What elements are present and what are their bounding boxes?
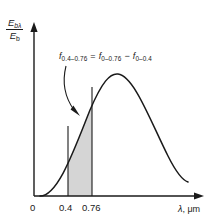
x-tick-label-0-4: 0.4 [59,203,72,213]
annotation-leader-line [64,66,74,110]
formula-equals: = [90,51,95,61]
y-axis-denominator-subscript: b [16,35,20,42]
x-tick-label-0: 0 [30,203,35,213]
x-axis-label-units: , μm [182,204,200,214]
formula-lhs-subscript: 0.4–0.76 [62,55,88,62]
formula-term2-subscript: 0–0.4 [135,55,152,62]
y-axis-denominator: Eb [6,30,23,41]
formula-minus: − [124,51,129,61]
formula-term1-subscript: 0–0.76 [101,55,121,62]
shaded-band [40,74,188,196]
y-axis-arrowhead [30,22,37,32]
spectral-curve [40,74,188,196]
fraction-formula-annotation: f0.4–0.76=f0–0.76−f0–0.4 [59,52,152,61]
blackbody-fraction-diagram: Ebλ Eb f0.4–0.76=f0–0.76−f0–0.4 0 0.4 0.… [0,0,220,223]
x-axis-arrowhead [194,192,204,199]
y-axis-label: Ebλ Eb [6,18,23,41]
y-axis-numerator-subscript: bλ [14,22,21,29]
x-tick-label-0-76: 0.76 [82,203,101,213]
y-axis-numerator: Ebλ [6,18,23,30]
plot-canvas [0,0,220,223]
x-axis-label: λ, μm [178,205,200,214]
